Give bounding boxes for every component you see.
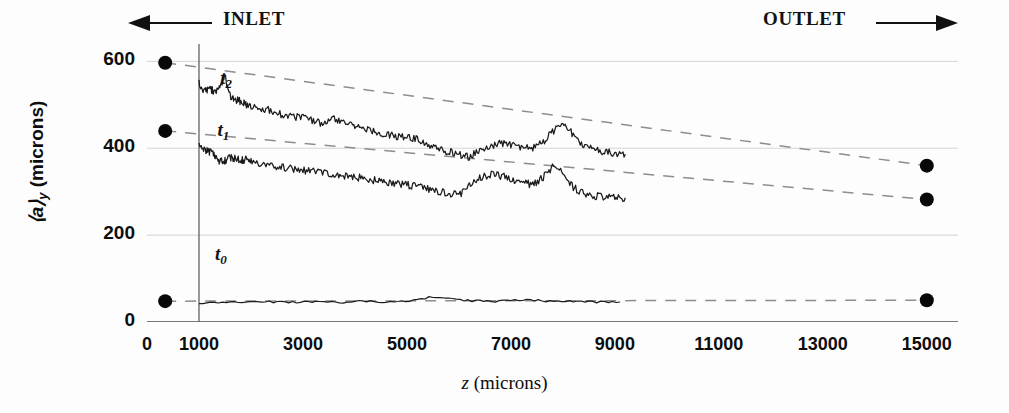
y-tick-label: 0 — [79, 309, 135, 331]
x-tick-label: 7000 — [466, 334, 556, 355]
curve-label-subscript: 1 — [223, 128, 230, 143]
inlet-arrow-icon — [128, 15, 150, 31]
curve-label-t2: t2 — [220, 67, 232, 92]
inlet-arrow-shaft — [150, 22, 212, 24]
endpoint-marker-t1 — [920, 193, 934, 207]
data-curve-t0 — [199, 297, 620, 304]
endpoint-marker-t1 — [158, 124, 172, 138]
trendline-t2-trend — [165, 63, 927, 166]
endpoint-marker-t2 — [158, 56, 172, 70]
x-axis-title-symbol: z — [461, 372, 468, 393]
curve-label-subscript: 2 — [225, 76, 232, 91]
y-tick-label: 600 — [79, 48, 135, 70]
y-axis-title-units: (microns) — [26, 101, 47, 193]
x-tick-label: 5000 — [362, 334, 452, 355]
x-tick-label: 9000 — [570, 334, 660, 355]
x-tick-label: 13000 — [778, 334, 868, 355]
y-axis-title: ⟨a⟩y (microns) — [25, 48, 50, 278]
x-axis-title: z (microns) — [0, 372, 1009, 394]
x-tick-label: 11000 — [674, 334, 764, 355]
outlet-label: OUTLET — [763, 8, 846, 30]
y-axis-title-subscript: y — [35, 193, 50, 200]
outlet-arrow-icon — [936, 15, 958, 31]
x-tick-label: 15000 — [882, 334, 972, 355]
y-axis-title-symbol: ⟨a⟩ — [26, 200, 47, 225]
curve-label-subscript: 0 — [220, 252, 227, 267]
endpoint-marker-t2 — [920, 159, 934, 173]
figure-panel: INLET OUTLET ⟨a⟩y (microns) z (microns) … — [0, 0, 1009, 413]
data-curve-t2 — [199, 75, 625, 161]
curve-label-t1: t1 — [218, 119, 230, 144]
endpoint-marker-t0 — [920, 293, 934, 307]
y-tick-label: 200 — [79, 222, 135, 244]
data-curve-t1 — [199, 143, 625, 202]
plot-svg — [147, 44, 958, 322]
y-tick-label: 400 — [79, 135, 135, 157]
plot-area — [147, 44, 958, 322]
x-axis-title-units: (microns) — [469, 372, 548, 393]
x-tick-label: 3000 — [258, 334, 348, 355]
inlet-label: INLET — [223, 8, 285, 30]
curve-label-t0: t0 — [215, 243, 227, 268]
outlet-arrow-shaft — [876, 22, 938, 24]
x-tick-label: 1000 — [154, 334, 244, 355]
endpoint-marker-t0 — [158, 294, 172, 308]
